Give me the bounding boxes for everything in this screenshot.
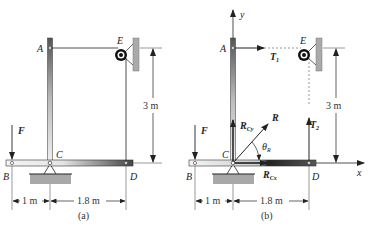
label-e-b: E (299, 35, 306, 46)
label-b: B (3, 171, 9, 182)
force-t2-label: T2 (310, 119, 319, 131)
panel-b: y x T1 T2 RCy R θR RCx (186, 9, 364, 222)
force-f-label-b: F (200, 125, 208, 136)
label-c-b: C (222, 149, 229, 160)
label-b-b: B (186, 171, 192, 182)
pin-d (125, 162, 128, 165)
x-axis-label: x (356, 167, 362, 178)
label-d-b: D (311, 171, 320, 182)
force-rcx-label: RCx (262, 169, 277, 181)
ground-support (30, 174, 71, 184)
dim-height-label-b: 3 m (326, 100, 342, 111)
force-rcy-label: RCy (239, 120, 254, 132)
caption-a: (a) (78, 210, 89, 222)
dim-left-label-b: 1 m (205, 195, 221, 206)
dim-height-label: 3 m (143, 100, 159, 111)
rod-ac (48, 38, 53, 161)
label-e: E (116, 35, 123, 46)
label-d: D (129, 171, 138, 182)
wall (133, 38, 139, 71)
angle-theta-label: θR (262, 141, 271, 153)
pin-c (48, 161, 52, 165)
beam-bd (6, 160, 133, 166)
force-t1-label: T1 (270, 51, 279, 63)
dim-right-label: 1.8 m (77, 195, 100, 206)
ground-support-b (213, 174, 254, 184)
panel-a: F 3 m 1 m 1.8 m A E B C D (a) (3, 35, 162, 222)
force-f-label: F (17, 125, 25, 136)
static-diagram: F 3 m 1 m 1.8 m A E B C D (a) (0, 0, 370, 230)
force-r-label: R (271, 112, 279, 123)
caption-b: (b) (261, 210, 273, 222)
label-a: A (36, 43, 44, 54)
dim-right-label-b: 1.8 m (260, 195, 283, 206)
pin-b (10, 161, 13, 164)
dim-left-label: 1 m (22, 195, 38, 206)
label-c: C (56, 149, 63, 160)
pin-a (49, 47, 52, 50)
label-a-b: A (219, 43, 227, 54)
angle-theta-arc (252, 142, 259, 160)
y-axis-label: y (239, 9, 245, 20)
wall-b (316, 38, 322, 71)
